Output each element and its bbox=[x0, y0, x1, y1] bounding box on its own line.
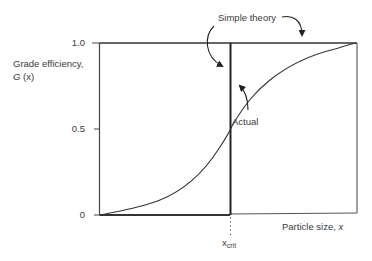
y-tick-label-05: 0.5 bbox=[55, 123, 85, 134]
simple-theory-arrow-left bbox=[207, 26, 222, 66]
y-tick-label-0: 0 bbox=[55, 209, 85, 220]
simple-theory-arrow-right bbox=[282, 17, 302, 35]
y-tick-label-1: 1.0 bbox=[55, 37, 85, 48]
actual-curve bbox=[100, 43, 356, 215]
actual-arrow bbox=[240, 86, 248, 110]
y-axis-label-line1: Grade efficiency, bbox=[13, 58, 83, 69]
x-axis-label: Particle size, x bbox=[282, 221, 343, 232]
x-crit-sub: crit bbox=[227, 242, 236, 249]
x-axis-right bbox=[230, 213, 357, 214]
x-axis-var: x bbox=[339, 221, 344, 232]
x-crit-label: xcrit bbox=[222, 237, 236, 251]
y-axis-var-rest: (x) bbox=[20, 71, 34, 82]
simple-theory-annotation: Simple theory bbox=[218, 12, 276, 23]
y-axis-label-line2: G (x) bbox=[13, 71, 83, 82]
actual-annotation: Actual bbox=[232, 116, 258, 127]
x-axis-label-text: Particle size, bbox=[282, 221, 339, 232]
y-axis-label: Grade efficiency, G (x) bbox=[13, 58, 83, 82]
